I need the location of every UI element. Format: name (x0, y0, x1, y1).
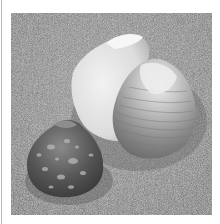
frame-edge-line (1, 0, 2, 224)
seashell-photo (11, 13, 212, 215)
